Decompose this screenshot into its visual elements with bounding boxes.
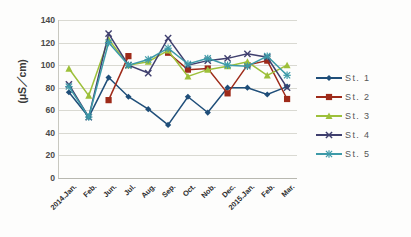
legend-swatch [316,71,342,85]
legend-marker-asterisk-icon [325,150,333,158]
legend-swatch [316,90,342,104]
data-point-cross [145,70,151,76]
y-axis-tick-label: 60 [29,106,55,114]
data-point-asterisk [244,63,251,70]
data-point-asterisk [325,150,332,157]
data-point-asterisk [145,56,152,63]
y-axis-tick-label: 20 [29,151,55,159]
series-1 [66,74,290,128]
data-point-square [224,90,230,96]
data-point-asterisk [204,55,211,62]
legend-item-2[interactable]: St. 2 [316,87,408,106]
data-point-cross [165,35,171,41]
plot-area [58,20,297,179]
data-point-asterisk [65,83,72,90]
legend-item-5[interactable]: St. 5 [316,144,408,163]
legend-item-1[interactable]: St. 1 [316,68,408,87]
data-point-square [125,53,131,59]
data-point-asterisk [164,45,171,52]
legend-swatch [316,128,342,142]
legend-label: St. 2 [345,92,371,102]
series-2 [105,50,290,104]
legend-marker-triangle-icon [325,112,333,120]
y-axis-tick-label: 120 [29,39,55,47]
legend-marker-diamond-icon [325,74,333,82]
legend: St. 1St. 2St. 3St. 4St. 5 [316,68,408,168]
y-axis-tick-label: 0 [29,174,55,182]
data-point-asterisk [125,61,132,68]
series-line [69,43,287,117]
legend-swatch [316,109,342,123]
data-point-diamond [264,91,270,97]
data-point-asterisk [224,61,231,68]
data-point-asterisk [264,52,271,59]
legend-marker-square-icon [325,93,333,101]
data-point-cross [326,131,332,137]
data-point-triangle [284,62,291,69]
legend-label: St. 4 [345,130,371,140]
data-point-asterisk [85,113,92,120]
legend-swatch [316,147,342,161]
x-axis-tick-labels: 2014.Jan.Feb.Jun.Jul.Aug.Sep.Oct.Nob.Dec… [58,180,296,235]
data-point-triangle [65,65,72,72]
series-3 [65,36,290,99]
legend-marker-cross-icon [325,131,333,139]
series-layer [59,20,297,178]
legend-item-4[interactable]: St. 4 [316,125,408,144]
data-point-asterisk [283,72,290,79]
data-point-asterisk [105,39,112,46]
series-line [69,78,287,125]
data-point-square [284,96,290,102]
legend-item-3[interactable]: St. 3 [316,106,408,125]
data-point-square [326,93,332,99]
series-line [69,34,287,118]
data-point-diamond [244,85,250,91]
data-point-triangle [326,112,333,119]
legend-label: St. 3 [345,111,371,121]
legend-label: St. 1 [345,73,371,83]
line-chart: (μS／cm) 140120100806040200 2014.Jan.Feb.… [0,0,411,237]
data-point-square [105,97,111,103]
legend-label: St. 5 [345,149,371,159]
y-axis-tick-label: 140 [29,16,55,24]
y-axis-tick-label: 80 [29,84,55,92]
y-axis-tick-label: 100 [29,61,55,69]
data-point-asterisk [184,60,191,67]
y-axis-tick-label: 40 [29,129,55,137]
data-point-diamond [326,74,332,80]
